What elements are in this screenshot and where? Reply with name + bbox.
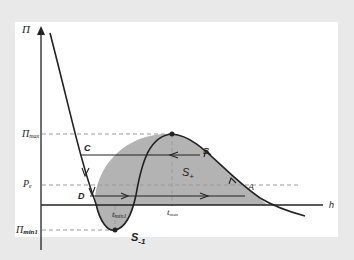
y-axis-arrow-icon [37,26,45,35]
max-point [170,132,175,137]
point-a-label: A [247,182,254,192]
point-d-label: D [78,191,85,201]
min-point [113,228,118,233]
point-b-label: B [203,146,209,156]
tick-t-max: tmax [167,207,179,217]
point-c-label: C [84,143,91,153]
isotherm-diagram: Π h Πmax Pe Πmin1 C D B A S+ S-1 tmax tm… [0,0,354,260]
area-s-minus-label: S-1 [131,231,146,246]
y-axis-label: Π [21,23,31,35]
x-axis-label: h [329,200,334,210]
tick-pi-min1: Πmin1 [15,224,38,236]
tick-pi-max: Πmax [21,128,40,139]
tick-pe: Pe [22,178,32,189]
